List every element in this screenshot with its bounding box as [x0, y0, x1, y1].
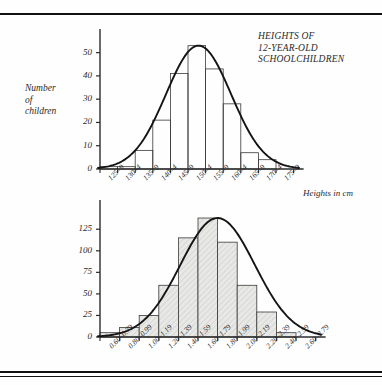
- y-tick-label: 125: [62, 223, 92, 233]
- chart-title-heights: HEIGHTS OF 12-YEAR-OLD SCHOOLCHILDREN: [258, 31, 344, 66]
- y-tick-label: 0: [62, 331, 92, 341]
- y-tick-label: 10: [62, 140, 92, 150]
- figure-page: Number of children HEIGHTS OF 12-YEAR-OL…: [0, 0, 382, 385]
- y-axis-label-children: Number of children: [25, 83, 56, 118]
- bar-145–9: [170, 74, 188, 169]
- bottom-rule-lower: [0, 376, 382, 377]
- bar-160–4: [223, 104, 241, 169]
- chart-heights: Number of children HEIGHTS OF 12-YEAR-OL…: [0, 14, 382, 186]
- bars-group: [100, 218, 296, 337]
- bars-group: [100, 46, 276, 169]
- y-tick-label: 40: [62, 70, 92, 80]
- y-tick-label: 50: [62, 47, 92, 57]
- bar-140–4: [153, 120, 171, 169]
- y-tick-label: 100: [62, 245, 92, 255]
- y-tick-label: 30: [62, 93, 92, 103]
- y-tick-label: 25: [62, 309, 92, 319]
- y-tick-label: 50: [62, 288, 92, 298]
- bar-150–4: [188, 46, 206, 169]
- bar-1.40–1.59: [178, 238, 198, 337]
- y-tick-label: 20: [62, 116, 92, 126]
- bar-1.60–1.79: [198, 218, 218, 337]
- bottom-rule-upper: [0, 371, 382, 373]
- y-tick-label: 75: [62, 266, 92, 276]
- chart-beans: Number of beans MASS OF BROAD BEAN SEEDS…: [0, 190, 382, 370]
- y-tick-label: 0: [62, 163, 92, 173]
- bar-155–9: [206, 69, 224, 169]
